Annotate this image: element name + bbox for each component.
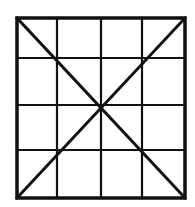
grid-diagram: [0, 0, 195, 207]
